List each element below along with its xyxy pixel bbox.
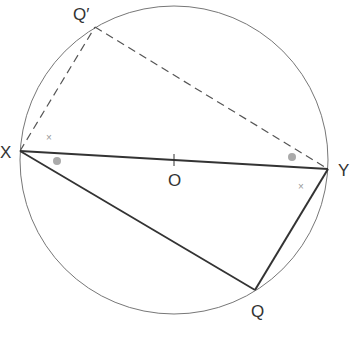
chord-YQ [255,169,328,290]
point-label-q: Q [251,302,264,321]
point-label-y: Y [338,161,349,180]
point-label-q-prime: Q′ [73,5,89,24]
chord-YQprime [95,27,328,169]
angle-cross-mark-x: × [46,132,52,143]
angle-cross-mark-y: × [298,181,304,192]
chord-XQprime [20,27,95,151]
point-label-o: O [168,171,181,190]
chord-XQ [20,151,255,290]
circle-diagram: × × X Y O Q Q′ [0,0,362,339]
angle-dot-mark-x [53,157,61,165]
point-label-x: X [0,143,11,162]
angle-dot-mark-y [288,153,296,161]
